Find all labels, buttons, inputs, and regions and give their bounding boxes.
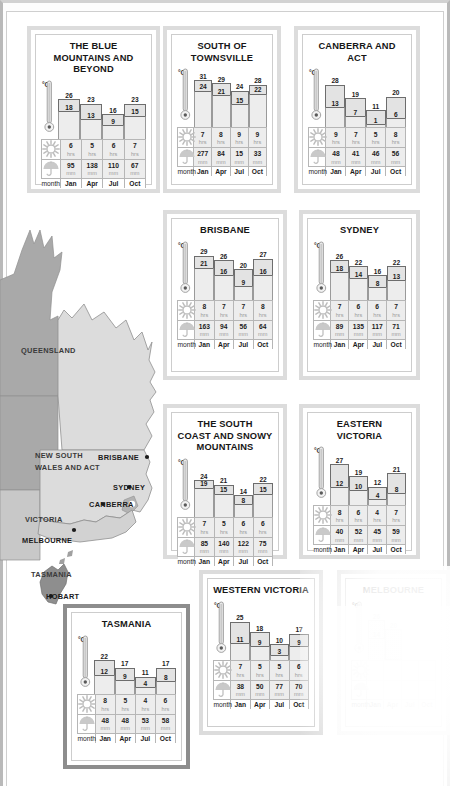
bar-column-jul[interactable]: 169 bbox=[102, 89, 124, 139]
min-temp-value: 13 bbox=[80, 112, 102, 119]
rainfall-unit: mm bbox=[212, 159, 229, 165]
bar-column-oct[interactable]: 178 bbox=[156, 644, 177, 694]
table-row-sunshine: 8hrs7hrs7hrs8hrs bbox=[178, 300, 273, 320]
sun-icon bbox=[178, 517, 195, 537]
umbrella-icon bbox=[309, 148, 326, 167]
bar-column-jul[interactable]: 2415 bbox=[231, 77, 249, 127]
sunshine-cell-apr: 7hrs bbox=[346, 128, 366, 148]
rainfall-mm-value: 140 bbox=[215, 539, 233, 549]
bar-column-apr[interactable]: 2214 bbox=[349, 250, 368, 300]
month-header-jan: Jan bbox=[95, 733, 115, 743]
bars-group-tasmania: 2212179114178 bbox=[94, 644, 176, 694]
climate-panel-canberra-act[interactable]: CANBERRA AND ACT°C28131971112069hrs7hrs5… bbox=[294, 26, 420, 193]
panel-title-south-coast: THE SOUTHCOAST AND SNOWYMOUNTAINS bbox=[177, 419, 273, 454]
rainfall-cell-oct: 64mm bbox=[253, 320, 273, 339]
bar-column-apr[interactable]: 197 bbox=[345, 77, 365, 127]
sunshine-hours-value: 9 bbox=[326, 130, 345, 140]
temperature-bar-chart-south-townsville: °C3124292124152822 bbox=[177, 69, 267, 127]
climate-panel-brisbane[interactable]: BRISBANE°C2921261620927168hrs7hrs7hrs8hr… bbox=[163, 210, 287, 380]
sunshine-hours-value: 7 bbox=[195, 519, 213, 529]
panel-title-line: WESTERN VICTORIA bbox=[213, 585, 309, 597]
bar-column-jan[interactable]: 2813 bbox=[325, 77, 345, 127]
bar-column-oct[interactable]: 2822 bbox=[249, 77, 267, 127]
sun-icon bbox=[178, 300, 195, 320]
bar-column-oct[interactable]: 2315 bbox=[124, 89, 146, 139]
bar-column-jan[interactable]: 2511 bbox=[230, 610, 250, 660]
bar-column-oct[interactable] bbox=[419, 610, 436, 660]
table-row-months: monthJanAprJulOct bbox=[178, 556, 273, 566]
rainfall-mm-value: 53 bbox=[136, 716, 155, 726]
rainfall-mm-value: 277 bbox=[194, 149, 211, 159]
max-temp-value: 28 bbox=[249, 77, 267, 84]
bars-group-blue-mountains: 261823131692315 bbox=[58, 89, 146, 139]
climate-panel-sydney[interactable]: SYDNEY°C2618221416822137hrs6hrs6hrs7hrs8… bbox=[299, 210, 420, 380]
bar-column-apr[interactable]: 179 bbox=[115, 644, 136, 694]
bar-column-apr[interactable]: 2616 bbox=[214, 250, 234, 300]
climate-panel-south-coast[interactable]: THE SOUTHCOAST AND SNOWYMOUNTAINS°C24192… bbox=[163, 404, 287, 559]
climate-panel-melbourne[interactable]: MELBOURNE°C261420monthJanAprJulOct bbox=[337, 570, 450, 735]
panel-inner-south-coast: THE SOUTHCOAST AND SNOWYMOUNTAINS°C24192… bbox=[171, 412, 279, 551]
climate-panel-eastern-victoria[interactable]: EASTERN VICTORIA°C271219101242188hrs6hrs… bbox=[299, 404, 420, 559]
climate-panel-blue-mountains[interactable]: THE BLUEMOUNTAINS ANDBEYOND°C26182313169… bbox=[27, 26, 160, 193]
bar-column-apr[interactable]: 2313 bbox=[80, 89, 102, 139]
bar-column-apr[interactable]: 20 bbox=[385, 610, 402, 660]
bar-column-oct[interactable]: 2716 bbox=[253, 250, 273, 300]
bar-column-apr[interactable]: 2921 bbox=[212, 77, 230, 127]
bar-column-jan[interactable]: 3124 bbox=[194, 77, 212, 127]
climate-table-sydney: 7hrs6hrs6hrs7hrs89mm135mm117mm71mmmonthJ… bbox=[313, 300, 406, 349]
climate-panel-south-townsville[interactable]: SOUTH OFTOWNSVILLE°C31242921241528227hrs… bbox=[163, 26, 281, 193]
bar-min-temp bbox=[349, 278, 368, 299]
climate-panel-tasmania[interactable]: TASMANIA°C22121791141788hrs5hrs4hrs6hrs4… bbox=[63, 604, 190, 769]
sunshine-cell-jan: 7hrs bbox=[195, 517, 214, 537]
panel-inner-canberra-act: CANBERRA AND ACT°C28131971112069hrs7hrs5… bbox=[302, 34, 412, 185]
bar-min-temp bbox=[156, 681, 177, 693]
rainfall-cell-jan: 48mm bbox=[326, 148, 346, 167]
bar-min-temp bbox=[253, 275, 273, 299]
bar-column-jul[interactable] bbox=[402, 610, 419, 660]
rainfall-mm-value: 110 bbox=[103, 161, 123, 171]
bar-column-jul[interactable]: 148 bbox=[234, 467, 254, 517]
rainfall-cell-oct: 71mm bbox=[387, 320, 406, 339]
bar-column-jul[interactable]: 111 bbox=[366, 77, 386, 127]
bar-column-jul[interactable]: 103 bbox=[270, 610, 290, 660]
max-temp-value: 21 bbox=[387, 466, 406, 473]
bar-column-apr[interactable]: 189 bbox=[250, 610, 270, 660]
bar-column-oct[interactable]: 2213 bbox=[387, 250, 406, 300]
bar-column-jan[interactable]: 2618 bbox=[58, 89, 80, 139]
bar-column-jan[interactable]: 2614 bbox=[368, 610, 385, 660]
sun-icon bbox=[42, 139, 61, 159]
table-row-rainfall: 95mm138mm110mm67mm bbox=[42, 159, 146, 178]
bar-column-oct[interactable]: 179 bbox=[289, 610, 309, 660]
map-label-nsw-line2: WALES AND ACT bbox=[35, 463, 100, 472]
month-header-apr: Apr bbox=[115, 733, 135, 743]
min-temp-value: 19 bbox=[194, 480, 214, 487]
sunshine-unit: hrs bbox=[96, 706, 115, 712]
bar-column-oct[interactable]: 206 bbox=[386, 77, 406, 127]
bar-min-temp bbox=[387, 493, 406, 505]
thermometer-icon bbox=[180, 457, 191, 517]
bar-min-temp bbox=[366, 124, 386, 127]
bar-column-jul[interactable]: 114 bbox=[135, 644, 156, 694]
min-temp-value: 4 bbox=[368, 492, 387, 499]
bar-column-apr[interactable]: 1910 bbox=[349, 455, 368, 505]
min-temp-value: 7 bbox=[345, 109, 365, 116]
rainfall-cell-apr: 48mm bbox=[115, 714, 135, 733]
rainfall-unit: mm bbox=[116, 725, 135, 731]
bar-column-jul[interactable]: 209 bbox=[234, 250, 254, 300]
bar-column-apr[interactable]: 2115 bbox=[214, 467, 234, 517]
bar-column-oct[interactable]: 2215 bbox=[253, 467, 273, 517]
min-temp-value: 22 bbox=[249, 86, 267, 93]
bar-column-jan[interactable]: 2419 bbox=[194, 467, 214, 517]
min-temp-value: 15 bbox=[124, 108, 146, 115]
max-temp-value: 27 bbox=[330, 457, 349, 464]
climate-panel-western-victoria[interactable]: WESTERN VICTORIA°C25111891031797hrs5hrs5… bbox=[199, 570, 323, 735]
bar-column-oct[interactable]: 218 bbox=[387, 455, 406, 505]
bar-column-jul[interactable]: 168 bbox=[368, 250, 387, 300]
bar-column-jan[interactable]: 2618 bbox=[330, 250, 349, 300]
bar-column-jan[interactable]: 2212 bbox=[94, 644, 115, 694]
panel-title-tasmania: TASMANIA bbox=[77, 619, 176, 631]
bar-column-jan[interactable]: 2921 bbox=[194, 250, 214, 300]
max-temp-value: 24 bbox=[194, 473, 214, 480]
bar-column-jul[interactable]: 124 bbox=[368, 455, 387, 505]
bar-column-jan[interactable]: 2712 bbox=[330, 455, 349, 505]
